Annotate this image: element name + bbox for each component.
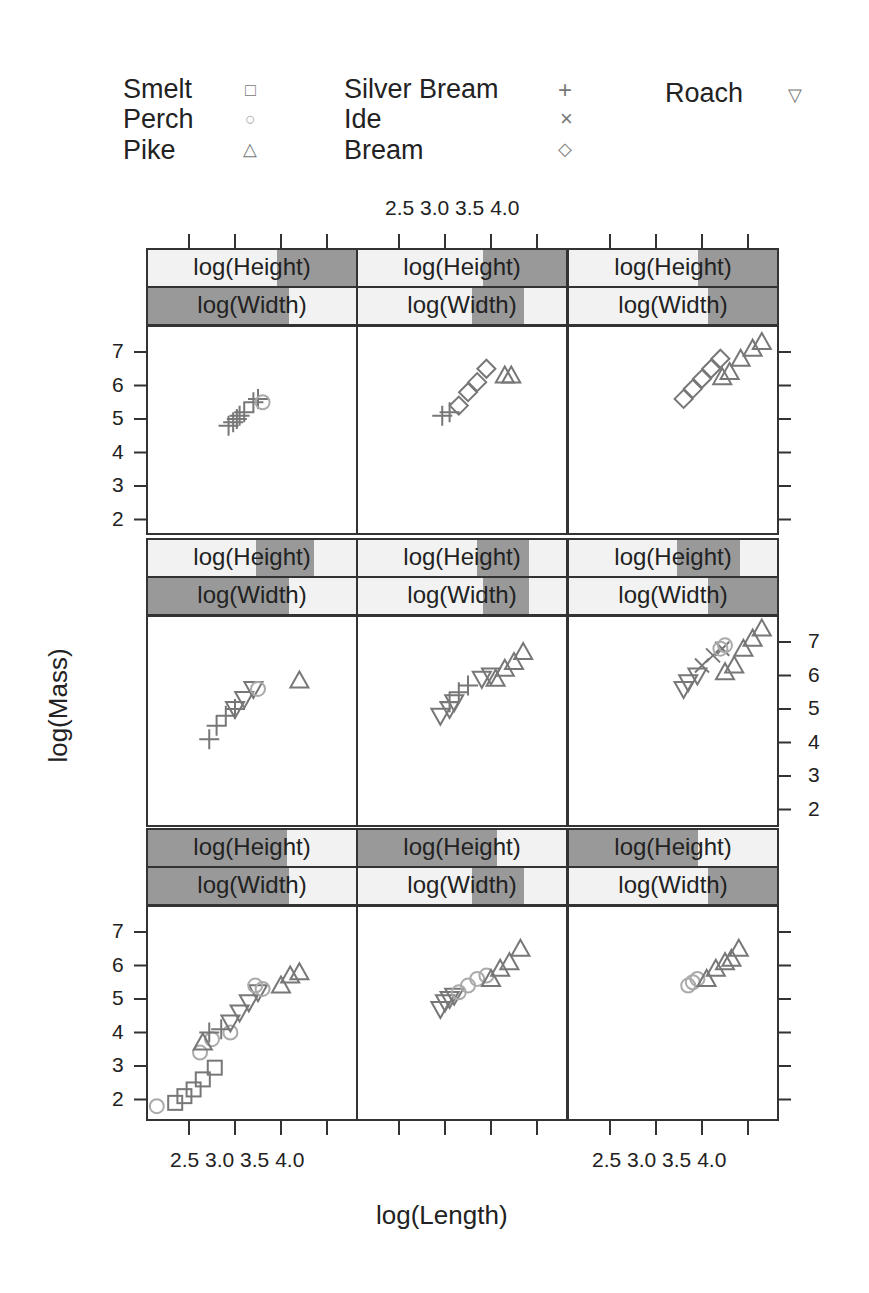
circle-marker: [686, 975, 700, 989]
triangle-marker: [496, 366, 514, 382]
y-tick-label: 5: [808, 696, 820, 720]
diamond-marker: [675, 390, 693, 408]
y-tick-label: 5: [112, 406, 124, 430]
triangle-marker: [732, 350, 750, 366]
y-tick-label: 7: [808, 629, 820, 653]
triangle-marker: [502, 366, 520, 382]
x-tick-label: 4.0: [697, 1148, 726, 1171]
triangle-marker: [272, 977, 290, 993]
x-tick-label: 3.5: [240, 1148, 269, 1171]
circle-marker: [150, 1099, 164, 1113]
y-tick-label: 3: [112, 1053, 124, 1077]
y-tick-label: 2: [112, 507, 124, 531]
x-tick-label: 3.5: [662, 1148, 691, 1171]
x-tick-label: 3.0: [205, 1148, 234, 1171]
diamond-marker: [693, 370, 711, 388]
bottom-x-tick-labels-right: 2.5 3.0 3.5 4.0: [592, 1148, 726, 1172]
triangle-marker: [734, 640, 752, 656]
x-tick-label: 4.0: [275, 1148, 304, 1171]
diamond-marker: [684, 380, 702, 398]
y-tick-label: 4: [112, 1020, 124, 1044]
x-axis-title: log(Length): [376, 1200, 508, 1231]
y-tick-label: 2: [808, 797, 820, 821]
plus-marker: [248, 389, 268, 409]
y-tick-label: 6: [808, 663, 820, 687]
triangle-marker: [290, 672, 308, 688]
y-tick-label: 3: [808, 763, 820, 787]
x-tick-label: 2.5: [170, 1148, 199, 1171]
plus-marker: [199, 1023, 219, 1043]
y-tick-label: 4: [808, 730, 820, 754]
y-tick-label: 5: [112, 986, 124, 1010]
circle-marker: [713, 642, 727, 656]
x-tick-label: 3.0: [627, 1148, 656, 1171]
y-tick-label: 2: [112, 1087, 124, 1111]
plot-svg: [0, 0, 869, 1293]
y-axis-title: log(Mass): [43, 636, 74, 776]
y-tick-label: 7: [112, 919, 124, 943]
bottom-x-tick-labels-left: 2.5 3.0 3.5 4.0: [170, 1148, 304, 1172]
y-tick-label: 3: [112, 473, 124, 497]
y-tick-label: 7: [112, 339, 124, 363]
x-tick-label: 2.5: [592, 1148, 621, 1171]
diamond-marker: [711, 350, 729, 368]
y-tick-label: 4: [112, 440, 124, 464]
triangle-marker: [511, 940, 529, 956]
y-tick-label: 6: [112, 373, 124, 397]
y-tick-label: 6: [112, 953, 124, 977]
